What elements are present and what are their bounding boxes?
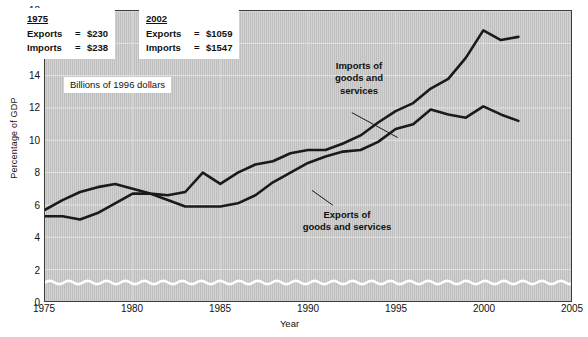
imports-annotation-line-1: Imports of bbox=[336, 60, 382, 71]
exports-key: Exports bbox=[27, 27, 75, 41]
x-axis-tick-labels: 1975198019851990199520002005 bbox=[0, 303, 579, 319]
exports-key: Exports bbox=[146, 27, 194, 41]
info-box-2002-exports: Exports=$1059 bbox=[146, 27, 232, 41]
y-tick-label-8: 8 bbox=[14, 167, 40, 178]
y-tick-label-4: 4 bbox=[14, 232, 40, 243]
info-box-1975-imports: Imports=$238 bbox=[27, 41, 108, 55]
info-box-1975: 1975 Exports=$230 Imports=$238 bbox=[20, 8, 115, 59]
x-tick-label-1985: 1985 bbox=[190, 303, 250, 314]
exports-value: $230 bbox=[87, 28, 108, 39]
imports-value: $1547 bbox=[206, 42, 232, 53]
imports-annotation-line-2: goods and bbox=[335, 72, 383, 83]
x-tick-label-2005: 2005 bbox=[542, 303, 588, 314]
imports-key: Imports bbox=[27, 41, 75, 55]
equals-sign: = bbox=[194, 27, 206, 41]
leader-line-exports bbox=[312, 190, 333, 205]
chart-canvas bbox=[45, 11, 571, 302]
exports-annotation-line-2: goods and services bbox=[303, 221, 392, 232]
units-caption: Billions of 1996 dollars bbox=[64, 77, 171, 93]
exports-value: $1059 bbox=[206, 28, 232, 39]
x-axis-title: Year bbox=[0, 318, 579, 329]
imports-series-annotation: Imports of goods and services bbox=[304, 60, 414, 97]
equals-sign: = bbox=[75, 41, 87, 55]
x-tick-label-1980: 1980 bbox=[102, 303, 162, 314]
x-tick-label-1990: 1990 bbox=[278, 303, 338, 314]
y-tick-label-6: 6 bbox=[14, 199, 40, 210]
y-tick-label-2: 2 bbox=[14, 264, 40, 275]
exports-annotation-line-1: Exports of bbox=[324, 209, 371, 220]
equals-sign: = bbox=[194, 41, 206, 55]
series-line-exports bbox=[45, 106, 518, 219]
annotation-leader-lines bbox=[312, 113, 398, 206]
equals-sign: = bbox=[75, 27, 87, 41]
y-tick-label-12: 12 bbox=[14, 102, 40, 113]
x-tick-label-2000: 2000 bbox=[454, 303, 514, 314]
info-box-2002: 2002 Exports=$1059 Imports=$1547 bbox=[139, 8, 239, 59]
plot-area bbox=[44, 10, 572, 302]
info-box-1975-year: 1975 bbox=[27, 12, 108, 26]
x-tick-label-1995: 1995 bbox=[366, 303, 426, 314]
leader-line-imports bbox=[352, 113, 398, 138]
info-box-2002-imports: Imports=$1547 bbox=[146, 41, 232, 55]
imports-key: Imports bbox=[146, 41, 194, 55]
exports-series-annotation: Exports of goods and services bbox=[277, 209, 417, 234]
series-line-imports bbox=[45, 30, 518, 209]
y-tick-label-10: 10 bbox=[14, 134, 40, 145]
gridlines bbox=[45, 11, 571, 302]
info-box-2002-year: 2002 bbox=[146, 12, 232, 26]
info-box-1975-exports: Exports=$230 bbox=[27, 27, 108, 41]
data-series-group bbox=[45, 30, 518, 219]
x-tick-label-1975: 1975 bbox=[14, 303, 74, 314]
imports-annotation-line-3: services bbox=[340, 85, 378, 96]
imports-value: $238 bbox=[87, 42, 108, 53]
y-tick-label-14: 14 bbox=[14, 69, 40, 80]
